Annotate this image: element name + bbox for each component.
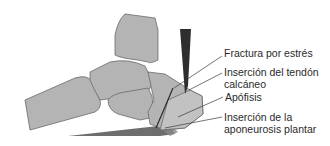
label-tendon-insertion-line1: Inserción del tendón	[224, 66, 319, 79]
label-plantar-insertion-line2: aponeurosis plantar	[224, 123, 316, 136]
label-stress-fracture: Fractura por estrés	[224, 47, 313, 60]
forefoot-bone	[25, 77, 100, 130]
talus-bone	[115, 14, 158, 63]
leader-tendon-insertion	[189, 73, 222, 90]
label-tendon-insertion-line2: calcáneo	[224, 78, 266, 91]
label-plantar-insertion-line1: Inserción de la	[224, 111, 292, 124]
label-apophysis: Apófisis	[225, 91, 262, 104]
leader-stress-fracture	[174, 56, 222, 88]
